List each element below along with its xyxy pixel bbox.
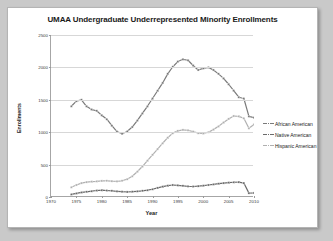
series-marker [111, 125, 113, 127]
series-marker [202, 185, 204, 187]
x-tick-label: 1975 [71, 199, 81, 204]
series-marker [151, 188, 153, 190]
series-marker [212, 69, 214, 71]
series-marker [182, 58, 184, 60]
x-tick-label: 1985 [122, 199, 132, 204]
legend-swatch-icon [263, 121, 274, 127]
y-tick-label: 2500 [38, 33, 48, 38]
series-marker [233, 115, 235, 117]
series-marker [111, 190, 113, 192]
y-tick-mark [49, 132, 51, 133]
series-marker [96, 180, 98, 182]
y-axis-label: Enrollments [16, 103, 22, 133]
series-marker [248, 127, 250, 129]
series-marker [96, 189, 98, 191]
series-marker [162, 186, 164, 188]
gridline [51, 165, 253, 166]
series-marker [75, 184, 77, 186]
series-marker [243, 117, 245, 119]
series-marker [223, 121, 225, 123]
y-tick-label: 1000 [38, 130, 48, 135]
series-marker [106, 118, 108, 120]
series-line [71, 116, 254, 187]
x-tick-mark [102, 196, 103, 198]
series-marker [106, 180, 108, 182]
legend-item[interactable]: Native American [263, 129, 321, 140]
series-marker [106, 189, 108, 191]
legend-label: Native American [275, 132, 311, 138]
series-marker [157, 148, 159, 150]
series-marker [217, 183, 219, 185]
series-marker [223, 77, 225, 79]
series-marker [182, 129, 184, 131]
series-marker [111, 180, 113, 182]
series-marker [212, 129, 214, 131]
series-marker [96, 110, 98, 112]
series-marker [85, 191, 87, 193]
gridline [51, 132, 253, 133]
series-marker [187, 129, 189, 131]
series-marker [141, 190, 143, 192]
series-marker [75, 192, 77, 194]
series-marker [228, 83, 230, 85]
x-tick-label: 1970 [46, 199, 56, 204]
series-marker [238, 96, 240, 98]
series-marker [253, 192, 254, 194]
series-marker [253, 123, 254, 125]
series-marker [207, 184, 209, 186]
gridline [51, 67, 253, 68]
series-marker [116, 190, 118, 192]
series-marker [253, 117, 254, 119]
series-marker [233, 181, 235, 183]
series-marker [121, 191, 123, 193]
series-marker [146, 189, 148, 191]
x-tick-mark [254, 196, 255, 198]
series-marker [101, 189, 103, 191]
chart-legend: African AmericanNative AmericanHispanic … [263, 118, 321, 151]
y-tick-mark [49, 67, 51, 68]
chart-canvas: UMAA Undergraduate Underrepresented Mino… [8, 8, 317, 227]
series-marker [217, 125, 219, 127]
legend-item[interactable]: Hispanic American [263, 140, 321, 151]
series-marker [162, 82, 164, 84]
series-marker [136, 171, 138, 173]
series-marker [91, 181, 93, 183]
series-marker [177, 61, 179, 63]
legend-item[interactable]: African American [263, 118, 321, 129]
series-marker [116, 180, 118, 182]
x-tick-mark [76, 196, 77, 198]
y-tick-label: 2000 [38, 65, 48, 70]
series-line [71, 182, 254, 194]
series-marker [85, 105, 87, 107]
series-marker [157, 187, 159, 189]
series-marker [131, 126, 133, 128]
series-marker [187, 59, 189, 61]
series-marker [238, 181, 240, 183]
series-marker [126, 191, 128, 193]
x-tick-label: 2010 [249, 199, 259, 204]
legend-label: African American [275, 121, 313, 127]
series-lines [51, 35, 254, 197]
x-tick-mark [153, 196, 154, 198]
chart-frame: UMAA Undergraduate Underrepresented Mino… [7, 7, 318, 228]
y-tick-mark [49, 165, 51, 166]
legend-label: Hispanic American [275, 143, 316, 149]
series-marker [131, 175, 133, 177]
series-marker [187, 185, 189, 187]
series-marker [141, 165, 143, 167]
series-marker [243, 182, 245, 184]
series-marker [197, 69, 199, 71]
x-tick-mark [51, 196, 52, 198]
plot-area: 05001000150020002500 1970197519801985199… [50, 35, 253, 197]
gridline [51, 100, 253, 101]
series-marker [85, 181, 87, 183]
series-marker [192, 64, 194, 66]
series-marker [126, 178, 128, 180]
series-marker [70, 186, 72, 188]
series-marker [157, 90, 159, 92]
series-marker [80, 191, 82, 193]
y-tick-label: 500 [41, 162, 48, 167]
series-marker [131, 191, 133, 193]
x-tick-mark [127, 196, 128, 198]
legend-swatch-icon [263, 143, 274, 149]
